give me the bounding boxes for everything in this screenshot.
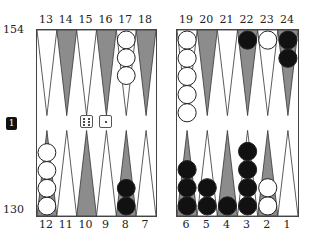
- board-left-half: [36, 29, 157, 217]
- doubling-cube[interactable]: 1: [6, 117, 17, 130]
- point-11[interactable]: [57, 130, 77, 216]
- black-checker[interactable]: [198, 197, 216, 215]
- white-checker[interactable]: [38, 179, 56, 197]
- white-checker[interactable]: [117, 49, 135, 67]
- white-checker[interactable]: [38, 197, 56, 215]
- die-pip: [83, 118, 85, 120]
- point-label-21: 21: [216, 13, 236, 26]
- point-10[interactable]: [77, 130, 97, 216]
- point-label-18: 18: [135, 13, 155, 26]
- point-label-14: 14: [56, 13, 76, 26]
- point-label-7: 7: [135, 218, 155, 231]
- die-2[interactable]: [99, 115, 112, 128]
- point-label-3: 3: [237, 218, 257, 231]
- point-21[interactable]: [217, 30, 237, 116]
- white-checker[interactable]: [178, 67, 196, 85]
- black-checker[interactable]: [198, 179, 216, 197]
- black-checker[interactable]: [117, 179, 135, 197]
- die-pip: [88, 118, 90, 120]
- pip-count-top: 154: [3, 23, 24, 36]
- point-label-8: 8: [115, 218, 135, 231]
- point-label-4: 4: [216, 218, 236, 231]
- point-label-13: 13: [36, 13, 56, 26]
- white-checker[interactable]: [117, 67, 135, 85]
- point-label-17: 17: [115, 13, 135, 26]
- white-checker[interactable]: [178, 31, 196, 49]
- black-checker[interactable]: [239, 142, 257, 160]
- point-label-11: 11: [56, 218, 76, 231]
- point-label-22: 22: [237, 13, 257, 26]
- black-checker[interactable]: [218, 197, 236, 215]
- point-label-23: 23: [257, 13, 277, 26]
- point-13[interactable]: [37, 30, 57, 116]
- white-checker[interactable]: [259, 31, 277, 49]
- point-16[interactable]: [97, 30, 117, 116]
- point-20[interactable]: [197, 30, 217, 116]
- point-14[interactable]: [57, 30, 77, 116]
- point-15[interactable]: [77, 30, 97, 116]
- white-checker[interactable]: [38, 162, 56, 180]
- point-label-20: 20: [196, 13, 216, 26]
- point-label-5: 5: [196, 218, 216, 231]
- white-checker[interactable]: [178, 86, 196, 104]
- point-label-24: 24: [277, 13, 297, 26]
- black-checker[interactable]: [279, 49, 297, 67]
- black-checker[interactable]: [239, 197, 257, 215]
- die-pip: [83, 124, 85, 126]
- point-label-19: 19: [176, 13, 196, 26]
- black-checker[interactable]: [117, 197, 135, 215]
- die-pip: [105, 121, 107, 123]
- black-checker[interactable]: [239, 161, 257, 179]
- white-checker[interactable]: [38, 144, 56, 162]
- die-1[interactable]: [80, 115, 93, 128]
- white-checker[interactable]: [178, 49, 196, 67]
- point-label-1: 1: [277, 218, 297, 231]
- black-checker[interactable]: [239, 31, 257, 49]
- black-checker[interactable]: [239, 179, 257, 197]
- point-label-6: 6: [176, 218, 196, 231]
- point-label-15: 15: [76, 13, 96, 26]
- die-pip: [83, 121, 85, 123]
- point-label-12: 12: [36, 218, 56, 231]
- black-checker[interactable]: [178, 161, 196, 179]
- point-18[interactable]: [136, 30, 156, 116]
- board-right-half: [176, 29, 299, 217]
- die-pip: [88, 121, 90, 123]
- black-checker[interactable]: [178, 197, 196, 215]
- point-label-9: 9: [95, 218, 115, 231]
- point-9[interactable]: [97, 130, 117, 216]
- white-checker[interactable]: [178, 104, 196, 122]
- white-checker[interactable]: [259, 179, 277, 197]
- point-label-16: 16: [95, 13, 115, 26]
- point-label-2: 2: [257, 218, 277, 231]
- white-checker[interactable]: [259, 197, 277, 215]
- pip-count-bottom: 130: [3, 203, 24, 216]
- white-checker[interactable]: [117, 31, 135, 49]
- black-checker[interactable]: [279, 31, 297, 49]
- point-1[interactable]: [278, 130, 298, 216]
- point-label-10: 10: [76, 218, 96, 231]
- point-7[interactable]: [136, 130, 156, 216]
- die-pip: [88, 124, 90, 126]
- black-checker[interactable]: [178, 179, 196, 197]
